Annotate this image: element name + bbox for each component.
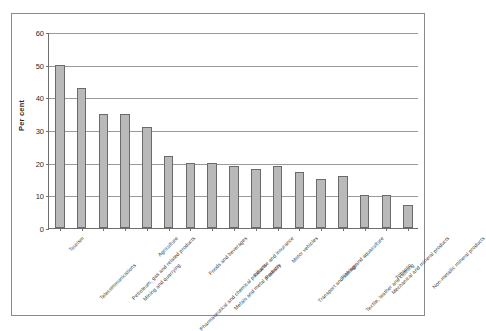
x-tick-mark bbox=[234, 228, 235, 231]
x-tick-mark bbox=[103, 228, 104, 231]
bar bbox=[207, 163, 217, 228]
y-tick-mark bbox=[46, 229, 49, 230]
x-tick-mark bbox=[321, 228, 322, 231]
y-tick-label: 10 bbox=[36, 192, 44, 201]
bar bbox=[99, 114, 109, 228]
x-tick-mark bbox=[256, 228, 257, 231]
y-tick-label: 20 bbox=[36, 159, 44, 168]
y-tick-label: 0 bbox=[40, 225, 44, 234]
bar bbox=[120, 114, 130, 228]
bar bbox=[316, 179, 326, 228]
plot-area: 0102030405060 bbox=[48, 33, 418, 229]
bar bbox=[77, 88, 87, 228]
bar bbox=[273, 166, 283, 228]
x-tick-mark bbox=[60, 228, 61, 231]
x-tick-mark bbox=[125, 228, 126, 231]
bar bbox=[164, 156, 174, 228]
bar bbox=[251, 169, 261, 228]
x-tick-mark bbox=[365, 228, 366, 231]
x-tick-mark bbox=[190, 228, 191, 231]
bar bbox=[338, 176, 348, 228]
x-tick-mark bbox=[386, 228, 387, 231]
bar bbox=[186, 163, 196, 228]
bar bbox=[382, 195, 392, 228]
y-tick-label: 50 bbox=[36, 61, 44, 70]
x-tick-mark bbox=[343, 228, 344, 231]
bars-group bbox=[49, 33, 418, 228]
bar bbox=[55, 65, 65, 228]
bar bbox=[295, 172, 305, 228]
bar bbox=[229, 166, 239, 228]
x-tick-mark bbox=[212, 228, 213, 231]
y-tick-label: 60 bbox=[36, 29, 44, 38]
x-tick-mark bbox=[147, 228, 148, 231]
x-tick-mark bbox=[408, 228, 409, 231]
bar bbox=[403, 205, 413, 228]
bar bbox=[142, 127, 152, 228]
x-tick-mark bbox=[82, 228, 83, 231]
y-tick-label: 40 bbox=[36, 94, 44, 103]
x-tick-mark bbox=[278, 228, 279, 231]
x-tick-mark bbox=[299, 228, 300, 231]
y-axis-title: Per cent bbox=[17, 100, 26, 131]
bar bbox=[360, 195, 370, 228]
y-tick-label: 30 bbox=[36, 127, 44, 136]
x-tick-mark bbox=[169, 228, 170, 231]
